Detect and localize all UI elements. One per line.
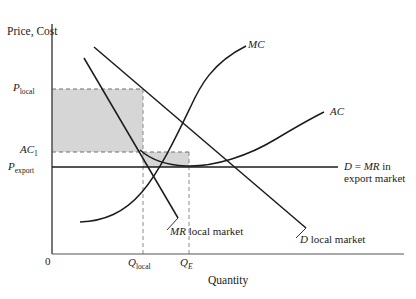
curve-label-d-local-abbr: D bbox=[300, 233, 308, 245]
plot-canvas bbox=[0, 0, 416, 299]
y-tick-ac1-sub: 1 bbox=[34, 149, 38, 158]
y-tick-ac1-base: AC bbox=[20, 143, 34, 155]
curve-label-mc: MC bbox=[248, 38, 265, 50]
origin-label: 0 bbox=[45, 255, 51, 267]
x-tick-q-local: Qlocal bbox=[128, 256, 151, 272]
y-tick-p-export-sub: export bbox=[15, 166, 34, 175]
curve-label-mr-local-text: local market bbox=[186, 225, 243, 237]
curve-label-eq: = bbox=[352, 160, 364, 172]
curve-label-ac: AC bbox=[330, 105, 344, 117]
curve-label-d-local-market: D local market bbox=[300, 233, 365, 245]
y-tick-p-export: Pexport bbox=[8, 160, 34, 176]
x-tick-q-local-sub: local bbox=[136, 262, 151, 271]
curve-label-mr-local-abbr: MR bbox=[170, 225, 186, 237]
y-tick-p-local-sub: local bbox=[20, 87, 35, 96]
economics-diagram-figure: Price, Cost Quantity 0 Plocal AC1 Pexpor… bbox=[0, 0, 416, 299]
x-tick-q-e: QE bbox=[180, 256, 193, 272]
y-tick-ac1: AC1 bbox=[20, 143, 38, 159]
curve-label-d-export: D bbox=[344, 160, 352, 172]
curve-label-d-local-text: local market bbox=[308, 233, 365, 245]
curve-label-d-mr-export-market: D = MR in export market bbox=[344, 160, 405, 185]
curve-label-mr-local-market: MR local market bbox=[170, 225, 243, 237]
y-tick-p-export-base: P bbox=[8, 160, 15, 172]
y-axis-title: Price, Cost bbox=[7, 25, 57, 38]
curve-label-in: in bbox=[380, 160, 391, 172]
x-tick-q-e-base: Q bbox=[180, 256, 188, 268]
curve-label-export-market-line2: export market bbox=[344, 172, 405, 184]
y-tick-p-local-base: P bbox=[13, 81, 20, 93]
x-axis-title: Quantity bbox=[208, 274, 248, 287]
x-tick-q-e-sub: E bbox=[188, 262, 193, 271]
shaded-region-local-market-profit bbox=[52, 89, 143, 152]
y-tick-p-local: Plocal bbox=[13, 81, 35, 97]
x-tick-q-local-base: Q bbox=[128, 256, 136, 268]
curve-label-mr-export: MR bbox=[364, 160, 380, 172]
